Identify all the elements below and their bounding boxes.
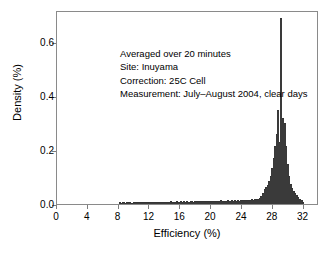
annotation-line: Averaged over 20 minutes <box>120 47 333 60</box>
annotation-line: Correction: 25C Cell <box>120 74 333 87</box>
histogram-bars <box>57 12 317 204</box>
x-tick-mark <box>56 205 57 209</box>
histogram-figure: Density (%) 0.00.20.40.6 Averaged over 2… <box>0 0 333 254</box>
y-axis-label: Density (%) <box>12 48 23 138</box>
y-tick-label: 0.4 <box>40 92 54 102</box>
x-tick-label: 24 <box>229 211 253 222</box>
x-tick-label: 12 <box>136 211 160 222</box>
x-tick-mark <box>87 205 88 209</box>
plot-area: Averaged over 20 minutes Site: Inuyama C… <box>56 11 318 205</box>
y-tick-label: 0.2 <box>40 146 54 156</box>
x-tick-mark <box>272 205 273 209</box>
y-tick-label: 0.6 <box>40 38 54 48</box>
annotation-line: Site: Inuyama <box>120 60 333 73</box>
x-tick-mark <box>179 205 180 209</box>
x-axis-label: Efficiency (%) <box>56 228 318 239</box>
x-tick-mark <box>118 205 119 209</box>
x-tick-mark <box>148 205 149 209</box>
x-tick-label: 28 <box>260 211 284 222</box>
x-tick-label: 4 <box>75 211 99 222</box>
x-tick-mark <box>210 205 211 209</box>
x-tick-mark <box>241 205 242 209</box>
annotation-block: Averaged over 20 minutes Site: Inuyama C… <box>120 47 333 101</box>
histogram-bar <box>302 202 304 204</box>
x-tick-label: 16 <box>167 211 191 222</box>
y-tick-label: 0.0 <box>40 200 54 210</box>
x-tick-mark <box>303 205 304 209</box>
x-tick-label: 0 <box>44 211 68 222</box>
x-tick-label: 20 <box>198 211 222 222</box>
x-tick-label: 32 <box>291 211 315 222</box>
x-tick-label: 8 <box>106 211 130 222</box>
annotation-line: Measurement: July–August 2004, clear day… <box>120 87 333 100</box>
